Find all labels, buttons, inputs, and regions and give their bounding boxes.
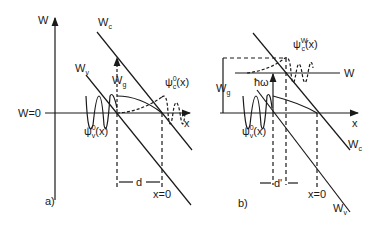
psi-c-label: ψ0c(x)	[165, 75, 189, 90]
band-diagram: W W=0 x Wc Wv Wg ψ0v(x) ψ0c(x) d x=0 a) …	[0, 0, 375, 225]
x-axis-label-b: x	[352, 117, 358, 129]
wv-label: Wv	[75, 62, 89, 76]
psi-v-label-b: ψ0v(x)	[242, 124, 266, 139]
conduction-band-line	[97, 32, 192, 150]
psi-v-label: ψ0v(x)	[84, 124, 108, 139]
wc-label-b: Wc	[348, 138, 362, 152]
psi-c-wave	[117, 96, 185, 124]
w-axis-label: W	[38, 14, 49, 26]
wv-label-b: Wv	[333, 202, 347, 216]
panel-a-label: a)	[45, 195, 55, 207]
panel-b-label: b)	[238, 197, 248, 209]
photon-label: ħω	[254, 76, 269, 88]
panel-b	[220, 33, 358, 212]
psi-v-wave	[86, 95, 117, 129]
psi-v-tail-b	[273, 96, 317, 113]
x0-label: x=0	[153, 188, 171, 200]
d-prime-label: d'	[274, 177, 282, 189]
panel-a	[45, 18, 192, 205]
valence-band-line-b	[257, 90, 350, 212]
zero-level-label: W=0	[18, 107, 41, 119]
x0-label-b: x=0	[308, 188, 326, 200]
psi-v-wave-b	[243, 95, 272, 129]
x-axis-label: x	[184, 117, 190, 129]
d-label: d	[136, 176, 142, 188]
wc-label: Wc	[98, 16, 112, 30]
w-level-label: W	[344, 67, 355, 79]
wg-label: Wg	[112, 74, 126, 89]
psi-c-label-b: ψWc(x)	[293, 37, 318, 52]
